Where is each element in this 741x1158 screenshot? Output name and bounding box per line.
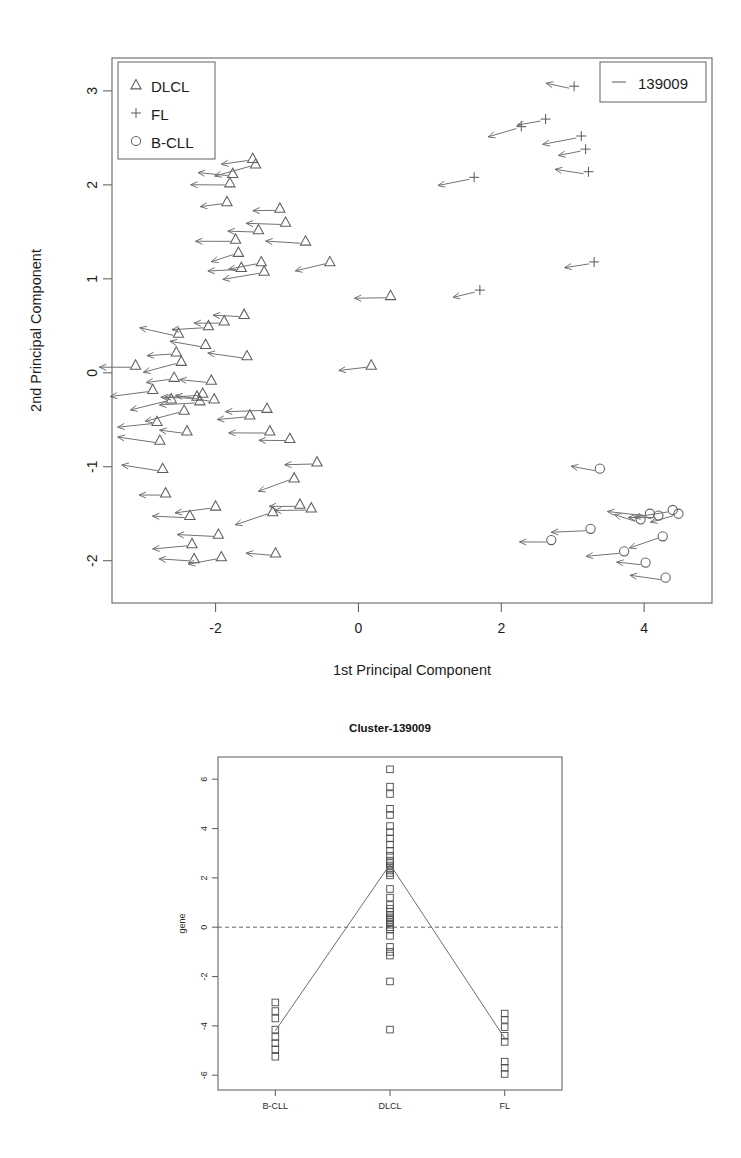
data-point-dlcl: [275, 203, 285, 212]
profile-y-tick-label: -4: [199, 1022, 209, 1030]
group-legend[interactable]: DLCLFLB-CLL: [118, 62, 215, 159]
cluster-profile-panel: Cluster-139009-6-4-20246geneB-CLLDLCLFL: [0, 700, 741, 1158]
data-point-dlcl: [242, 350, 252, 359]
arrow-head-0: [170, 339, 177, 341]
arrow-head-0: [152, 513, 159, 516]
arrow-head-1: [110, 397, 117, 399]
arrow-shaft: [246, 223, 280, 224]
pca-biplot-svg: -2024-2-101231st Principal Component2nd …: [0, 0, 741, 700]
data-point-dlcl: [325, 257, 335, 266]
arrow-head-1: [339, 370, 346, 372]
gene-square: [387, 1026, 394, 1033]
gene-square: [387, 791, 394, 798]
arrow-head-0: [198, 170, 205, 172]
arrow-head-1: [200, 207, 207, 209]
data-point-fl: [469, 172, 479, 182]
arrow-head-1: [225, 412, 232, 415]
arrow-head-1: [221, 164, 228, 166]
loading-arrow: [146, 379, 169, 385]
data-point-dlcl: [171, 347, 181, 356]
data-point-fl: [569, 81, 579, 91]
gene-square: [501, 1071, 508, 1078]
cluster-legend-label: 139009: [638, 75, 688, 92]
gene-square: [387, 894, 394, 901]
loading-arrow: [629, 538, 657, 548]
gene-square: [387, 857, 394, 864]
loading-arrow: [191, 182, 225, 188]
loading-arrow: [118, 435, 155, 442]
series-dlcl: [99, 153, 395, 566]
loading-arrow: [160, 401, 195, 407]
loading-arrow: [213, 312, 239, 318]
arrow-head-0: [607, 509, 614, 511]
data-point-b-cll: [595, 464, 604, 473]
loading-arrow: [140, 326, 174, 335]
x-tick-label: 0: [355, 620, 363, 636]
loading-arrow: [571, 464, 595, 470]
loading-arrow: [170, 339, 201, 346]
loading-arrow: [555, 167, 583, 173]
profile-title: Cluster-139009: [349, 722, 431, 734]
loading-arrow: [266, 238, 301, 244]
data-point-b-cll: [586, 524, 595, 533]
arrow-head-1: [551, 532, 558, 535]
x-tick-label: 4: [640, 620, 648, 636]
gene-square: [387, 841, 394, 848]
data-point-dlcl: [312, 457, 322, 466]
arrow-head-1: [208, 271, 215, 274]
gene-square: [387, 978, 394, 985]
arrow-head-1: [118, 427, 125, 429]
loading-arrow: [285, 461, 312, 467]
loading-arrow: [228, 228, 254, 234]
loading-arrow: [196, 238, 231, 244]
arrow-head-0: [122, 463, 129, 465]
data-point-dlcl: [130, 360, 140, 369]
loading-arrow: [139, 492, 160, 498]
arrow-head-1: [543, 144, 550, 146]
arrow-head-1: [354, 298, 361, 301]
profile-y-tick-label: 0: [199, 925, 209, 930]
loading-arrow: [200, 203, 222, 209]
arrow-head-0: [630, 573, 637, 575]
gene-square: [501, 1010, 508, 1017]
loading-arrow: [223, 273, 259, 281]
arrow-head-1: [146, 383, 153, 385]
loading-arrow: [118, 423, 152, 429]
cluster-legend[interactable]: 139009: [600, 62, 706, 102]
data-point-b-cll: [645, 509, 654, 518]
data-point-dlcl: [259, 266, 269, 275]
mean-profile-line: [275, 864, 504, 1038]
y-tick-label: 2: [84, 181, 100, 189]
profile-y-tick-label: -6: [199, 1071, 209, 1079]
group-legend-label-fl: FL: [151, 106, 169, 123]
data-point-dlcl: [155, 435, 165, 444]
arrow-head-1: [565, 268, 572, 270]
arrow-head-0: [118, 435, 125, 437]
arrow-head-0: [176, 393, 183, 395]
loading-arrow: [438, 179, 469, 187]
gene-square: [501, 1016, 508, 1023]
data-point-dlcl: [280, 217, 290, 226]
profile-x-tick-label: DLCL: [378, 1101, 401, 1111]
arrow-head-1: [223, 279, 230, 281]
data-point-dlcl: [233, 247, 243, 256]
data-point-b-cll: [620, 547, 629, 556]
gene-square: [501, 1039, 508, 1046]
arrow-head-1: [453, 297, 460, 298]
loading-arrow: [339, 367, 366, 373]
y-axis-title: 2nd Principal Component: [28, 249, 44, 412]
profile-y-axis-title: gene: [177, 913, 187, 933]
loading-arrow: [147, 352, 171, 358]
arrow-head-1: [295, 271, 302, 272]
gene-square: [272, 1040, 279, 1047]
gene-square: [387, 829, 394, 836]
arrow-shaft: [175, 508, 211, 513]
data-point-dlcl: [262, 403, 272, 412]
gene-square: [387, 852, 394, 859]
gene-square: [387, 872, 394, 879]
loading-arrow: [175, 508, 211, 515]
arrow-head-0: [266, 238, 273, 241]
loading-arrow: [229, 430, 265, 436]
arrow-head-0: [180, 377, 187, 379]
loading-arrow: [295, 264, 325, 272]
